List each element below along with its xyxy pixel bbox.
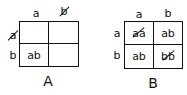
row-label-b: b: [7, 50, 19, 61]
grid-divider-horizontal: [124, 44, 183, 45]
cell-ab: ab: [125, 51, 153, 62]
column-label-a: a: [30, 8, 42, 19]
cell-ba: ab: [20, 50, 48, 61]
caption-b: B: [145, 76, 161, 90]
column-label-a: a: [133, 9, 145, 20]
row-label-a: a: [111, 28, 123, 39]
grid-divider-horizontal: [19, 43, 79, 44]
cell-ab: ab: [154, 28, 182, 39]
caption-a: A: [40, 74, 56, 88]
row-label-b: b: [111, 50, 123, 61]
column-label-b: b: [162, 8, 174, 19]
